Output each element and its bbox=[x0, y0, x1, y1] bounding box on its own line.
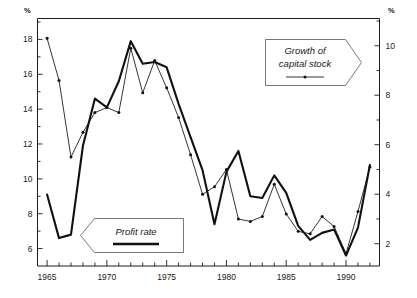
data-point-marker bbox=[356, 210, 359, 213]
data-point-marker bbox=[201, 193, 204, 196]
left-tick-label: 12 bbox=[23, 139, 33, 149]
data-point-marker bbox=[297, 230, 300, 233]
data-point-marker bbox=[273, 183, 276, 186]
data-point-marker bbox=[165, 86, 168, 89]
data-point-marker bbox=[129, 47, 132, 50]
left-tick-label: 14 bbox=[23, 104, 33, 114]
left-tick-label: 18 bbox=[23, 34, 33, 44]
chart-figure: % % 681012141618 246810 1965197019751980… bbox=[0, 0, 417, 298]
data-point-marker bbox=[189, 153, 192, 156]
right-tick-label: 2 bbox=[386, 239, 391, 249]
right-tick-label: 10 bbox=[386, 41, 396, 51]
right-tick-label: 4 bbox=[386, 189, 391, 199]
left-tick-label: 16 bbox=[23, 69, 33, 79]
data-point-marker bbox=[321, 215, 324, 218]
data-point-marker bbox=[261, 215, 264, 218]
data-point-marker bbox=[46, 37, 49, 40]
callout-capital-stock: Growth of capital stock bbox=[266, 40, 362, 86]
right-axis-ticks: 246810 bbox=[375, 21, 396, 249]
right-tick-label: 8 bbox=[386, 90, 391, 100]
left-axis-ticks: 681012141618 bbox=[23, 22, 42, 254]
data-point-marker bbox=[249, 220, 252, 223]
data-point-marker bbox=[69, 156, 72, 159]
data-point-marker bbox=[141, 91, 144, 94]
data-point-marker bbox=[237, 217, 240, 220]
data-point-marker bbox=[93, 111, 96, 114]
x-tick-label: 1965 bbox=[38, 272, 57, 282]
left-tick-label: 6 bbox=[28, 244, 33, 254]
left-tick-label: 8 bbox=[28, 209, 33, 219]
x-tick-label: 1985 bbox=[277, 272, 296, 282]
x-tick-label: 1980 bbox=[217, 272, 236, 282]
callout-profit-rate-label: Profit rate bbox=[115, 226, 156, 237]
x-axis-ticks: 196519701975198019851990 bbox=[38, 260, 370, 282]
data-point-marker bbox=[213, 185, 216, 188]
data-point-marker bbox=[345, 252, 348, 255]
data-point-marker bbox=[368, 166, 371, 169]
data-point-marker bbox=[333, 225, 336, 228]
data-point-marker bbox=[309, 232, 312, 235]
right-axis-unit: % bbox=[388, 6, 395, 15]
data-point-marker bbox=[58, 79, 61, 82]
right-tick-label: 6 bbox=[386, 140, 391, 150]
left-axis-unit: % bbox=[24, 6, 31, 15]
callout-capital-stock-label-1: Growth of bbox=[284, 45, 327, 56]
x-tick-label: 1975 bbox=[157, 272, 176, 282]
data-point-marker bbox=[177, 116, 180, 119]
x-tick-label: 1970 bbox=[97, 272, 116, 282]
left-tick-label: 10 bbox=[23, 174, 33, 184]
data-point-marker bbox=[105, 106, 108, 109]
data-point-marker bbox=[153, 59, 156, 62]
data-point-marker bbox=[117, 111, 120, 114]
x-tick-label: 1990 bbox=[337, 272, 356, 282]
data-point-marker bbox=[225, 168, 228, 171]
data-point-marker bbox=[285, 213, 288, 216]
data-point-marker bbox=[81, 131, 84, 134]
callout-profit-rate: Profit rate bbox=[81, 219, 184, 253]
callout-capital-stock-marker-sample bbox=[304, 76, 307, 79]
callout-capital-stock-label-2: capital stock bbox=[279, 58, 333, 69]
